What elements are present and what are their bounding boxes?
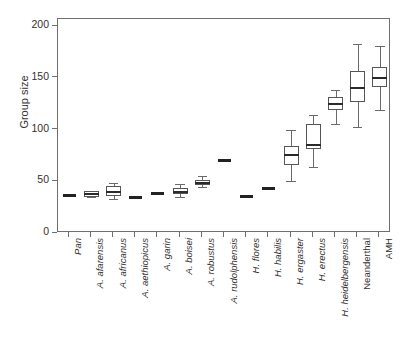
x-tick-mark bbox=[201, 232, 202, 237]
x-tick-mark bbox=[68, 232, 69, 237]
y-axis-title: Group size bbox=[18, 42, 30, 162]
x-tick-label: A. afarensis bbox=[94, 238, 105, 288]
y-tick-label: 0 bbox=[43, 225, 49, 237]
x-tick-label: H. flores bbox=[250, 238, 261, 273]
x-tick-mark bbox=[156, 232, 157, 237]
x-tick-mark bbox=[378, 232, 379, 237]
plot-area bbox=[57, 18, 390, 232]
x-tick-label: AMH bbox=[383, 238, 394, 259]
x-tick-mark bbox=[334, 232, 335, 237]
whisker-cap-upper bbox=[375, 46, 385, 47]
x-tick-mark bbox=[112, 232, 113, 237]
x-tick-label: A. boisei bbox=[183, 238, 194, 274]
x-tick-mark bbox=[90, 232, 91, 237]
x-tick-label: A. rudolphensis bbox=[228, 238, 239, 303]
x-tick-label: H. erectus bbox=[316, 238, 327, 281]
x-tick-mark bbox=[134, 232, 135, 237]
x-tick-label: Neanderthal bbox=[361, 238, 372, 290]
y-tick-label: 100 bbox=[31, 122, 49, 134]
x-tick-mark bbox=[267, 232, 268, 237]
x-tick-mark bbox=[223, 232, 224, 237]
median-line bbox=[372, 77, 387, 79]
x-tick-label: A. robustus bbox=[205, 238, 216, 286]
x-tick-mark bbox=[290, 232, 291, 237]
boxplot-figure: Group size 050100150200 PanA. afarensisA… bbox=[0, 0, 404, 337]
x-tick-mark bbox=[356, 232, 357, 237]
x-tick-label: H. habilis bbox=[272, 238, 283, 277]
y-tick-label: 200 bbox=[31, 18, 49, 30]
x-tick-label: H. heidelbergensis bbox=[339, 238, 350, 317]
x-tick-label: Pan bbox=[72, 238, 83, 255]
x-tick-label: A. garin bbox=[161, 238, 172, 271]
y-tick-label: 150 bbox=[31, 70, 49, 82]
whisker-cap-lower bbox=[375, 110, 385, 111]
x-tick-mark bbox=[312, 232, 313, 237]
y-tick-label: 50 bbox=[37, 173, 49, 185]
x-tick-mark bbox=[179, 232, 180, 237]
x-tick-label: H. ergaster bbox=[294, 238, 305, 285]
x-tick-label: A. africanus bbox=[117, 238, 128, 288]
x-tick-label: A. aethiopicus bbox=[139, 238, 150, 298]
x-tick-mark bbox=[245, 232, 246, 237]
box-plot-item bbox=[58, 19, 389, 231]
